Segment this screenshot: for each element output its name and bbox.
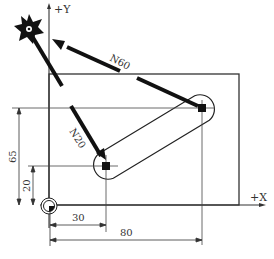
slot-end-point [198, 104, 206, 112]
slot-outline [94, 95, 215, 179]
milling-cutter-icon [14, 14, 44, 44]
x-axis-label: +X [250, 191, 267, 204]
extension-lines [12, 100, 215, 245]
y-axis-arrow-icon [47, 3, 51, 9]
dimension-30-label: 30 [72, 212, 85, 223]
slot-start-point [102, 162, 110, 170]
y-axis-label: +Y [54, 3, 71, 16]
workpiece-origin-icon [41, 198, 57, 214]
dimension-30 [50, 223, 106, 227]
dimension-80-label: 80 [120, 227, 133, 238]
dimension-80 [50, 238, 202, 242]
cnc-toolpath-diagram: +Y +X N60 N20 [0, 0, 274, 259]
dimension-20-label: 20 [21, 179, 32, 192]
dimension-65-label: 65 [7, 150, 18, 163]
n60-arrowhead-icon [52, 39, 65, 50]
